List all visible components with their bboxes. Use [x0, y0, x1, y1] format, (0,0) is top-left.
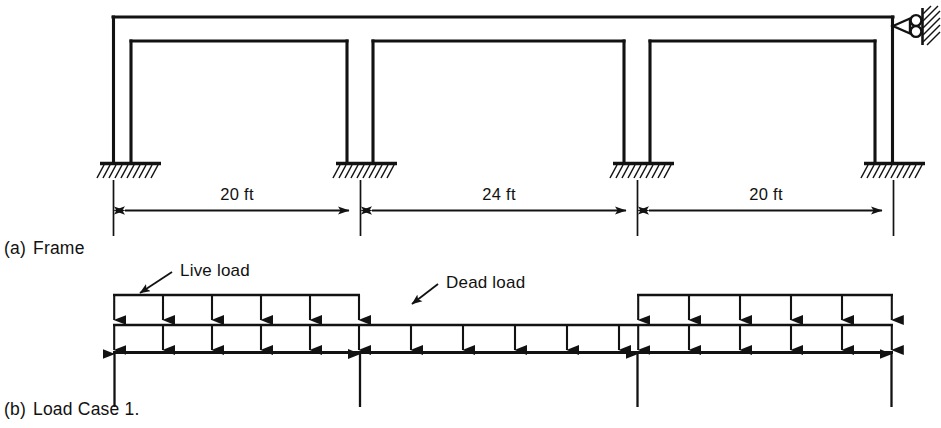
subfigure-b-label: Load Case 1.: [33, 399, 140, 419]
dead-load-full-span: [113, 325, 893, 350]
frame-diagram: 20 ft 24 ft 20 ft: [0, 0, 941, 240]
dead-load-annotation: Dead load: [412, 273, 525, 304]
dead-load-leader: [412, 284, 438, 304]
span-2-label: 24 ft: [482, 185, 516, 203]
live-load-leader: [140, 272, 172, 293]
subfigure-b-caption: (b)Load Case 1.: [4, 399, 140, 420]
live-load-bay-3: [637, 295, 893, 320]
span-1-label: 20 ft: [220, 185, 254, 203]
roller-support-icon: [893, 6, 940, 45]
figure-canvas: 20 ft 24 ft 20 ft: [0, 0, 941, 428]
dead-load-label: Dead load: [446, 273, 525, 292]
subfigure-a-index: (a): [4, 238, 26, 258]
span-3-label: 20 ft: [749, 185, 783, 203]
live-load-label: Live load: [180, 262, 250, 280]
subfigure-b-index: (b): [4, 399, 26, 419]
support-reactions: [115, 354, 892, 407]
fixed-support-1: [97, 164, 161, 179]
fixed-support-2: [333, 164, 397, 179]
fixed-support-4: [861, 164, 925, 179]
subfigure-a-label: Frame: [33, 238, 85, 258]
live-load-bay-1: [113, 295, 360, 320]
live-load-annotation: Live load: [140, 262, 250, 293]
loadcase-diagram: Live load Dead load: [0, 262, 941, 412]
subfigure-a-caption: (a)Frame: [4, 238, 85, 259]
fixed-support-3: [610, 164, 674, 179]
